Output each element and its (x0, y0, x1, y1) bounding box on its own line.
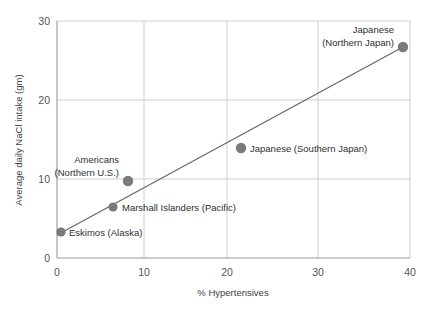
annotation-japanese-southern: Japanese (Southern Japan) (250, 143, 367, 154)
annotation-japanese-northern-line1: Japanese (353, 24, 394, 35)
data-point-japanese-northern[interactable] (398, 42, 408, 52)
y-tick-label-10: 10 (38, 173, 50, 185)
annotation-japanese-northern-line2: (Northern Japan) (322, 37, 394, 48)
x-tick-label-30: 30 (312, 266, 324, 278)
x-tick-label-40: 40 (404, 266, 416, 278)
scatter-chart: 30 20 10 0 0 10 20 30 40 % Hypertensives… (0, 0, 426, 310)
y-axis-title: Average daily NaCl intake (gm) (13, 74, 24, 205)
x-tick-label-20: 20 (221, 266, 233, 278)
data-point-americans[interactable] (123, 176, 133, 186)
data-point-japanese-southern[interactable] (236, 143, 246, 153)
annotation-americans-line1: Americans (74, 154, 119, 165)
annotation-eskimos: Eskimos (Alaska) (69, 227, 142, 238)
x-tick-label-0: 0 (54, 266, 60, 278)
y-tick-label-0: 0 (44, 252, 50, 264)
annotation-marshall-islanders: Marshall Islanders (Pacific) (122, 202, 236, 213)
x-axis-title: % Hypertensives (197, 287, 269, 298)
y-tick-label-20: 20 (38, 94, 50, 106)
data-point-marshall-islanders[interactable] (108, 202, 117, 211)
chart-canvas: 30 20 10 0 0 10 20 30 40 % Hypertensives… (0, 0, 426, 310)
vertical-gridlines (144, 21, 410, 258)
data-point-eskimos[interactable] (56, 227, 65, 236)
y-tick-label-30: 30 (38, 15, 50, 27)
x-tick-label-10: 10 (138, 266, 150, 278)
annotation-americans-line2: (Northern U.S.) (55, 167, 119, 178)
